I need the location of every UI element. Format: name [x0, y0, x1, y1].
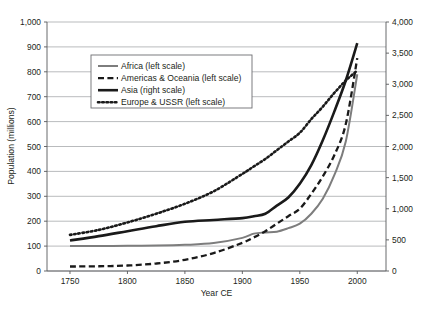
x-axis-tick-label: 1750	[61, 276, 80, 286]
right-axis-tick-label: 2,000	[392, 142, 413, 152]
left-axis-tick-label: 200	[27, 216, 41, 226]
legend-label-3: Europe & USSR (left scale)	[121, 97, 225, 107]
x-axis-tick-label: 1850	[176, 276, 195, 286]
chart-legend: Africa (left scale)Americas & Oceania (l…	[91, 55, 252, 108]
legend-label-2: Asia (right scale)	[121, 85, 185, 95]
population-line-chart: 01002003004005006007008009001,000 05001,…	[0, 0, 443, 312]
right-axis-tick-label: 1,000	[392, 204, 413, 214]
right-axis-tick-label: 3,500	[392, 48, 413, 58]
legend-label-1: Americas & Oceania (left scale)	[121, 73, 241, 83]
left-axis-tick-label: 600	[27, 117, 41, 127]
x-axis-tick-label: 1950	[290, 276, 309, 286]
y-axis-title: Population (millions)	[6, 107, 16, 185]
left-axis-tick-label: 1,000	[20, 17, 41, 27]
left-axis-tick-label: 400	[27, 166, 41, 176]
x-axis-tick-label: 1900	[233, 276, 252, 286]
right-axis-tick-label: 2,500	[392, 110, 413, 120]
left-axis-tick-label: 100	[27, 241, 41, 251]
right-axis-tick-label: 4,000	[392, 17, 413, 27]
left-axis-tick-label: 900	[27, 42, 41, 52]
right-axis-tick-label: 500	[392, 235, 406, 245]
right-axis-tick-label: 3,000	[392, 79, 413, 89]
right-axis-tick-label: 1,500	[392, 173, 413, 183]
x-axis-tick-label: 1800	[118, 276, 137, 286]
left-axis-tick-label: 0	[36, 266, 41, 276]
chart-canvas: 01002003004005006007008009001,000 05001,…	[0, 0, 443, 312]
legend-label-0: Africa (left scale)	[121, 61, 185, 71]
right-axis-tick-label: 0	[392, 266, 397, 276]
left-axis-tick-label: 700	[27, 92, 41, 102]
left-axis-tick-label: 500	[27, 142, 41, 152]
x-axis-title: Year CE	[201, 288, 233, 298]
left-axis-tick-label: 300	[27, 191, 41, 201]
left-axis-tick-label: 800	[27, 67, 41, 77]
x-axis-tick-label: 2000	[348, 276, 367, 286]
